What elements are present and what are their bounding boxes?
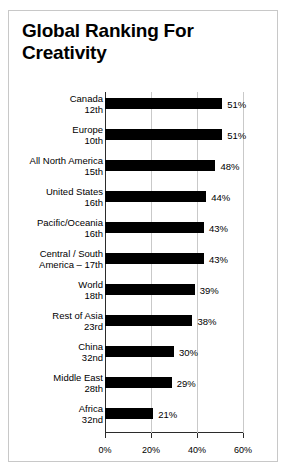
category-name: China: [78, 341, 103, 352]
category-name: Pacific/Oceania: [37, 217, 103, 228]
bar-row: 29%: [105, 377, 243, 389]
bar-value-label: 44%: [211, 191, 230, 202]
category-name: Europe: [72, 124, 103, 135]
category-label: Pacific/Oceania16th: [0, 217, 103, 240]
category-name: Rest of Asia: [52, 310, 103, 321]
category-rank: 28th: [0, 383, 103, 395]
chart-figure: Global Ranking For Creativity 0%20%40%60…: [0, 0, 288, 470]
category-name: Central / South: [40, 248, 103, 259]
bar-value-label: 43%: [209, 253, 228, 264]
bar-row: 48%: [105, 160, 243, 172]
category-label: China32nd: [0, 341, 103, 364]
bar-row: 43%: [105, 253, 243, 265]
bar-value-label: 29%: [177, 377, 196, 388]
category-label: World18th: [0, 279, 103, 302]
x-tick: [105, 433, 106, 438]
category-rank: 23rd: [0, 321, 103, 333]
x-axis-line: [105, 432, 243, 433]
category-name: Canada: [70, 93, 103, 104]
category-label: Canada12th: [0, 93, 103, 116]
x-tick: [151, 433, 152, 438]
bar-value-label: 21%: [158, 408, 177, 419]
bar-row: 30%: [105, 346, 243, 358]
category-name: Middle East: [53, 372, 103, 383]
bar: [105, 222, 204, 234]
bar-row: 44%: [105, 191, 243, 203]
category-name: All North America: [30, 155, 103, 166]
bar-row: 51%: [105, 129, 243, 141]
category-rank: 18th: [0, 290, 103, 302]
bar-row: 43%: [105, 222, 243, 234]
x-tick: [243, 433, 244, 438]
bar-value-label: 39%: [200, 284, 219, 295]
chart-title: Global Ranking For Creativity: [22, 20, 252, 64]
x-tick-label: 20%: [142, 445, 160, 455]
bar: [105, 253, 204, 265]
bar-value-label: 38%: [197, 315, 216, 326]
bar-row: 21%: [105, 408, 243, 420]
category-label: Central / SouthAmerica – 17th: [0, 248, 103, 271]
category-rank: 10th: [0, 135, 103, 147]
bar: [105, 191, 206, 203]
bar: [105, 129, 222, 141]
bar: [105, 160, 215, 172]
bar-row: 51%: [105, 98, 243, 110]
category-rank: 16th: [0, 228, 103, 240]
x-tick: [197, 433, 198, 438]
x-tick-label: 0%: [98, 445, 111, 455]
category-label: All North America15th: [0, 155, 103, 178]
category-label: Middle East28th: [0, 372, 103, 395]
category-name: World: [78, 279, 103, 290]
category-rank: America – 17th: [0, 259, 103, 271]
category-name: Africa: [79, 403, 103, 414]
x-tick-label: 40%: [188, 445, 206, 455]
bar: [105, 408, 153, 420]
bar: [105, 346, 174, 358]
bar: [105, 284, 195, 296]
bar-value-label: 30%: [179, 346, 198, 357]
category-rank: 12th: [0, 104, 103, 116]
category-rank: 32nd: [0, 352, 103, 364]
x-tick-label: 60%: [234, 445, 252, 455]
bar-row: 38%: [105, 315, 243, 327]
category-label: Rest of Asia23rd: [0, 310, 103, 333]
bar-value-label: 51%: [227, 98, 246, 109]
category-rank: 32nd: [0, 414, 103, 426]
bar-value-label: 48%: [220, 160, 239, 171]
bar-row: 39%: [105, 284, 243, 296]
bar: [105, 98, 222, 110]
bar-value-label: 43%: [209, 222, 228, 233]
category-label: United States16th: [0, 186, 103, 209]
category-rank: 16th: [0, 197, 103, 209]
category-name: United States: [46, 186, 103, 197]
category-rank: 15th: [0, 166, 103, 178]
bar-value-label: 51%: [227, 129, 246, 140]
gridline: [243, 92, 244, 433]
bar: [105, 377, 172, 389]
category-label: Europe10th: [0, 124, 103, 147]
bar: [105, 315, 192, 327]
plot-area: 0%20%40%60% 51%51%48%44%43%43%39%38%30%2…: [105, 92, 243, 433]
category-label: Africa32nd: [0, 403, 103, 426]
